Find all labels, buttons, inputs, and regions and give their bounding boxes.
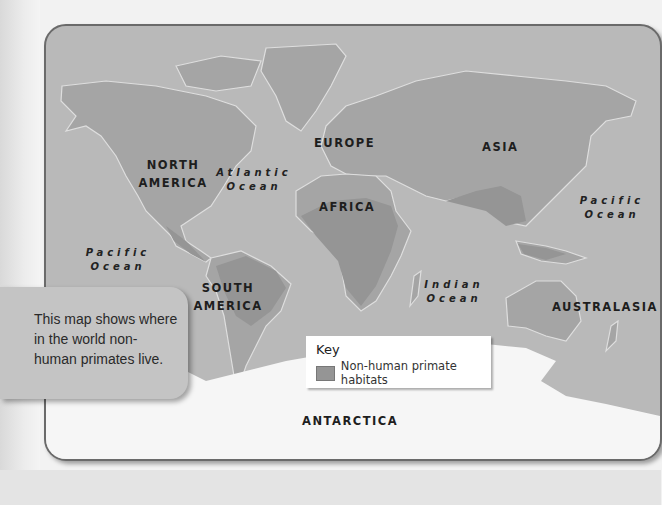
label-indian-ocean: Indian Ocean	[418, 278, 490, 306]
label-antarctica: ANTARCTICA	[302, 412, 398, 430]
label-north-america: NORTH AMERICA	[138, 156, 208, 192]
label-pacific-ocean-west: Pacific Ocean	[82, 246, 154, 274]
label-africa: AFRICA	[319, 198, 375, 216]
key-item: Non-human primate habitats	[316, 359, 481, 387]
label-europe: EUROPE	[314, 134, 375, 152]
arctic-islands	[176, 56, 261, 91]
caption-text: This map shows where in the world non-hu…	[34, 311, 177, 367]
label-pacific-ocean-east: Pacific Ocean	[576, 194, 648, 222]
new-zealand	[606, 321, 618, 351]
label-south-america: SOUTH AMERICA	[192, 279, 264, 315]
caption-box: This map shows where in the world non-hu…	[0, 287, 188, 399]
label-asia: ASIA	[482, 138, 518, 156]
label-australasia: AUSTRALASIA	[552, 298, 658, 316]
habitat-swatch-icon	[316, 366, 335, 381]
key-title: Key	[316, 342, 481, 357]
map-key: Key Non-human primate habitats	[306, 336, 491, 388]
page-bottom	[0, 470, 661, 505]
page-edge	[0, 0, 40, 505]
key-item-label: Non-human primate habitats	[341, 359, 481, 387]
label-atlantic-ocean: Atlantic Ocean	[214, 166, 294, 194]
